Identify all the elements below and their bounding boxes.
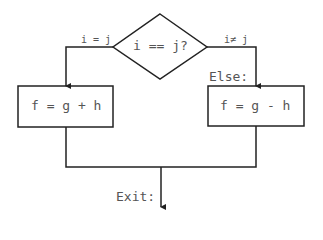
box-left-label: f = g + h	[31, 98, 101, 113]
false-branch-label: i≠ j	[224, 34, 248, 45]
true-branch-line	[66, 47, 113, 86]
merge-line	[66, 126, 256, 167]
exit-label: Exit:	[116, 189, 155, 204]
true-branch-label: i = j	[81, 34, 111, 45]
else-label: Else:	[209, 69, 248, 84]
box-right-label: f = g - h	[220, 98, 290, 113]
decision-label: i == j?	[133, 38, 188, 53]
